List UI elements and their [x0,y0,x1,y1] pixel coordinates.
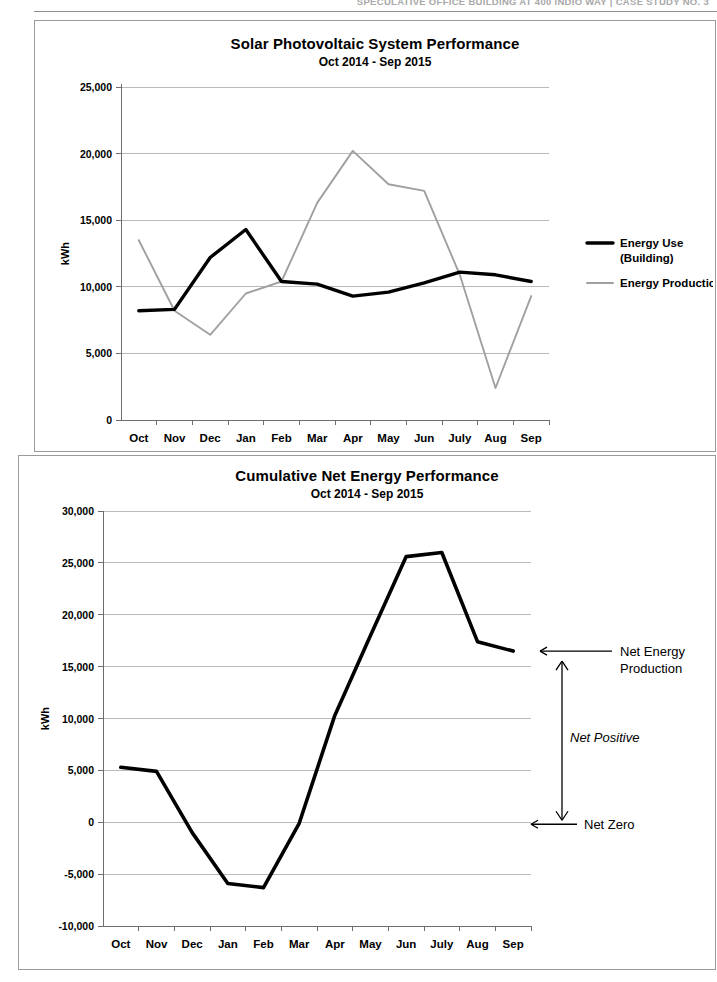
y-tick-label: 5,000 [86,347,112,359]
y-tick-label: -10,000 [58,920,94,932]
legend-label-energy-use-line1: Energy Use [620,237,683,249]
x-tick-label-jan: Jan [236,432,256,444]
x-tick-label-july: July [448,432,472,444]
y-tick-label: 25,000 [80,81,112,93]
header-divider [34,11,717,12]
x-tick-label-may: May [377,432,400,444]
x-tick-label-sep: Sep [503,938,524,950]
annotation-net-positive: Net Positive [570,730,639,745]
series-line-energy-use [139,230,531,311]
x-tick-label-apr: Apr [343,432,363,444]
annotation-net-zero: Net Zero [584,817,635,832]
y-tick-label: 0 [106,414,112,426]
x-tick-label-dec: Dec [182,938,204,950]
legend-label-energy-production: Energy Production [620,277,713,289]
x-tick-label-sep: Sep [521,432,542,444]
y-axis-title: kWh [59,242,71,266]
legend-label-energy-use-line2: (Building) [620,252,674,264]
y-tick-label: 25,000 [62,557,94,569]
y-tick-label: 20,000 [62,609,94,621]
x-tick-label-nov: Nov [146,938,168,950]
x-tick-label-feb: Feb [271,432,291,444]
x-tick-label-jan: Jan [218,938,238,950]
x-tick-label-oct: Oct [111,938,130,950]
x-tick-label-aug: Aug [466,938,488,950]
y-tick-label: 30,000 [62,505,94,517]
figure-2-frame: Cumulative Net Energy Performance Oct 20… [18,455,716,970]
figure-1-frame: Solar Photovoltaic System Performance Oc… [34,20,716,452]
x-tick-label-jun: Jun [414,432,434,444]
x-tick-label-mar: Mar [289,938,310,950]
y-tick-label: 15,000 [80,214,112,226]
annotation-net-energy-production-line2: Production [620,661,682,676]
x-tick-label-may: May [359,938,382,950]
x-tick-label-jun: Jun [396,938,416,950]
y-tick-label: 15,000 [62,661,94,673]
x-tick-label-aug: Aug [484,432,506,444]
running-header-text: SPECULATIVE OFFICE BUILDING AT 400 INDIO… [357,0,709,7]
chart-2-canvas: -10,000-5,00005,00010,00015,00020,00025,… [19,456,713,967]
y-tick-label: 10,000 [80,281,112,293]
y-axis-title: kWh [39,707,51,731]
y-tick-label: 20,000 [80,148,112,160]
series-line-energy-production [139,151,531,388]
y-tick-label: 0 [88,816,94,828]
x-tick-label-nov: Nov [164,432,186,444]
series-line-cumulative-net-energy [121,553,513,888]
x-tick-label-july: July [430,938,454,950]
x-tick-label-oct: Oct [129,432,148,444]
figure-page: SPECULATIVE OFFICE BUILDING AT 400 INDIO… [0,0,717,982]
x-tick-label-dec: Dec [200,432,222,444]
y-tick-label: -5,000 [64,868,94,880]
annotation-net-energy-production-line1: Net Energy [620,644,686,659]
x-tick-label-feb: Feb [253,938,273,950]
x-tick-label-apr: Apr [325,938,345,950]
y-tick-label: 10,000 [62,713,94,725]
x-tick-label-mar: Mar [307,432,328,444]
y-tick-label: 5,000 [68,764,94,776]
chart-1-canvas: 05,00010,00015,00020,00025,000OctNovDecJ… [35,21,713,449]
